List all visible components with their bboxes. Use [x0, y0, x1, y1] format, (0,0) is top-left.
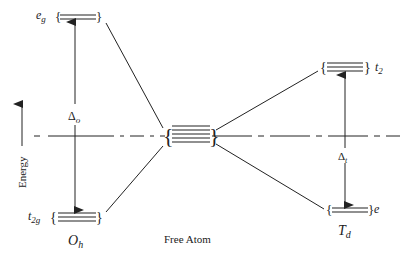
td-t2-label: t2 [375, 60, 383, 76]
td-t2-level [327, 63, 363, 71]
free-atom-brace-left: { [163, 123, 174, 148]
energy-axis: Energy [16, 104, 28, 188]
oh-t2g-brace-right: } [96, 210, 103, 225]
energy-axis-label: Energy [16, 156, 28, 188]
oh-t2g-brace-left: { [50, 210, 57, 225]
connector-lines [106, 23, 324, 212]
td-symmetry-label: Td [338, 223, 352, 240]
td-e-level [332, 208, 368, 212]
td-e-label: e [374, 202, 380, 216]
td-t2-brace-left: { [320, 60, 327, 75]
oh-symmetry-label: Oh [68, 233, 83, 250]
oh-t2g-level [58, 213, 96, 221]
oh-t2g-label: t2g [28, 209, 41, 225]
oh-eg-brace-left: { [55, 9, 61, 24]
oh-eg-brace-right: } [96, 9, 102, 24]
oh-eg-label: eg [36, 8, 46, 24]
free-atom-brace-right: } [209, 123, 220, 148]
td-t2-brace-right: } [364, 60, 371, 75]
free-atom-label: Free Atom [164, 233, 211, 245]
free-atom-level [172, 126, 210, 142]
oh-eg-level [60, 15, 96, 19]
crystal-field-diagram: Energy { } eg { } t2g Δo Oh { } Free A [0, 0, 406, 256]
td-e-brace-left: { [326, 202, 332, 217]
